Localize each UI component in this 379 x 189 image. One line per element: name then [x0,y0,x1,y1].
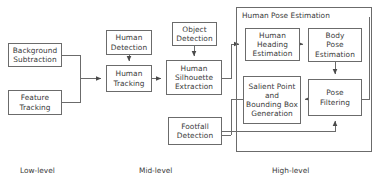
node-pose-filtering[interactable]: Pose Filtering [308,79,362,116]
level-label-mid: Mid-level [139,166,172,175]
node-background-subtraction[interactable]: Background Subtraction [8,43,62,67]
wire-silhouette-to-bus [222,44,231,79]
node-salient-point-bounding-box-generation[interactable]: Salient Point and Bounding Box Generatio… [243,76,301,124]
node-human-detection[interactable]: Human Detection [106,30,152,55]
level-label-low: Low-level [20,166,55,175]
level-label-high: High-level [272,166,309,175]
wire-feattrack-to-junction [62,79,80,103]
node-human-silhouette-extraction[interactable]: Human Silhouette Extraction [166,60,222,95]
human-pose-estimation-group-title: Human Pose Estimation [241,11,331,20]
node-feature-tracking[interactable]: Feature Tracking [8,90,62,115]
node-body-pose-estimation[interactable]: Body Pose Estimation [308,28,362,62]
wire-bgsub-to-junction [62,55,80,79]
pipeline-diagram: Human Pose Estimation Background Subtrac… [0,0,379,189]
node-human-tracking[interactable]: Human Tracking [106,65,152,92]
node-human-heading-estimation[interactable]: Human Heading Estimation [245,28,300,61]
node-object-detection[interactable]: Object Detection [172,22,217,46]
node-footfall-detection[interactable]: Footfall Detection [168,117,222,145]
